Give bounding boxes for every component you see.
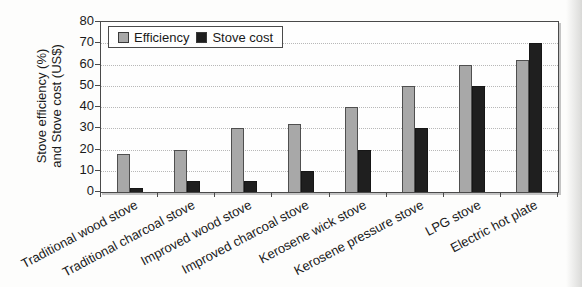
x-tick-mark [329, 192, 330, 197]
bar-efficiency [516, 60, 529, 192]
x-tick-mark [157, 192, 158, 197]
bar-efficiency [117, 154, 130, 192]
bar-efficiency [402, 86, 415, 192]
bar-efficiency [231, 128, 244, 192]
y-axis-title-line1: Stove efficiency (%) [34, 2, 49, 210]
x-tick-mark [214, 192, 215, 197]
bar-efficiency [174, 150, 187, 193]
legend-item-stove-cost: Stove cost [196, 31, 273, 44]
bar-efficiency [288, 124, 301, 192]
x-tick-mark [100, 192, 101, 197]
bar-stove-cost [187, 181, 200, 192]
bar-stove-cost [301, 171, 314, 192]
bar-efficiency [459, 65, 472, 193]
bar-group [330, 22, 387, 192]
page-scan-edge [566, 0, 582, 287]
bar-stove-cost [415, 128, 428, 192]
x-tick-mark [271, 192, 272, 197]
x-tick-mark [443, 192, 444, 197]
bar-group [501, 22, 558, 192]
legend-swatch-icon [118, 32, 129, 43]
y-tick-label-80: 80 [60, 14, 94, 28]
legend: EfficiencyStove cost [108, 26, 283, 48]
bar-stove-cost [244, 181, 257, 192]
bar-stove-cost [472, 86, 485, 192]
legend-swatch-icon [196, 32, 207, 43]
bar-efficiency [345, 107, 358, 192]
bar-group [444, 22, 501, 192]
plot-area: EfficiencyStove cost [100, 21, 559, 193]
legend-label: Stove cost [212, 31, 273, 44]
bar-stove-cost [130, 188, 143, 192]
bar-group [387, 22, 444, 192]
legend-item-efficiency: Efficiency [118, 31, 189, 44]
legend-label: Efficiency [134, 31, 189, 44]
y-tick-label-70: 70 [60, 35, 94, 49]
bar-stove-cost [529, 43, 542, 192]
bar-stove-cost [358, 150, 371, 193]
y-tick-label-30: 30 [60, 120, 94, 134]
y-tick-label-0: 0 [60, 184, 94, 198]
x-tick-mark [500, 192, 501, 197]
x-tick-mark [557, 192, 558, 197]
y-tick-label-60: 60 [60, 57, 94, 71]
x-tick-mark [386, 192, 387, 197]
y-tick-label-20: 20 [60, 142, 94, 156]
y-tick-label-50: 50 [60, 78, 94, 92]
chart-figure: Stove efficiency (%) and Stove cost (US$… [0, 0, 582, 287]
y-tick-label-40: 40 [60, 99, 94, 113]
y-tick-label-10: 10 [60, 163, 94, 177]
